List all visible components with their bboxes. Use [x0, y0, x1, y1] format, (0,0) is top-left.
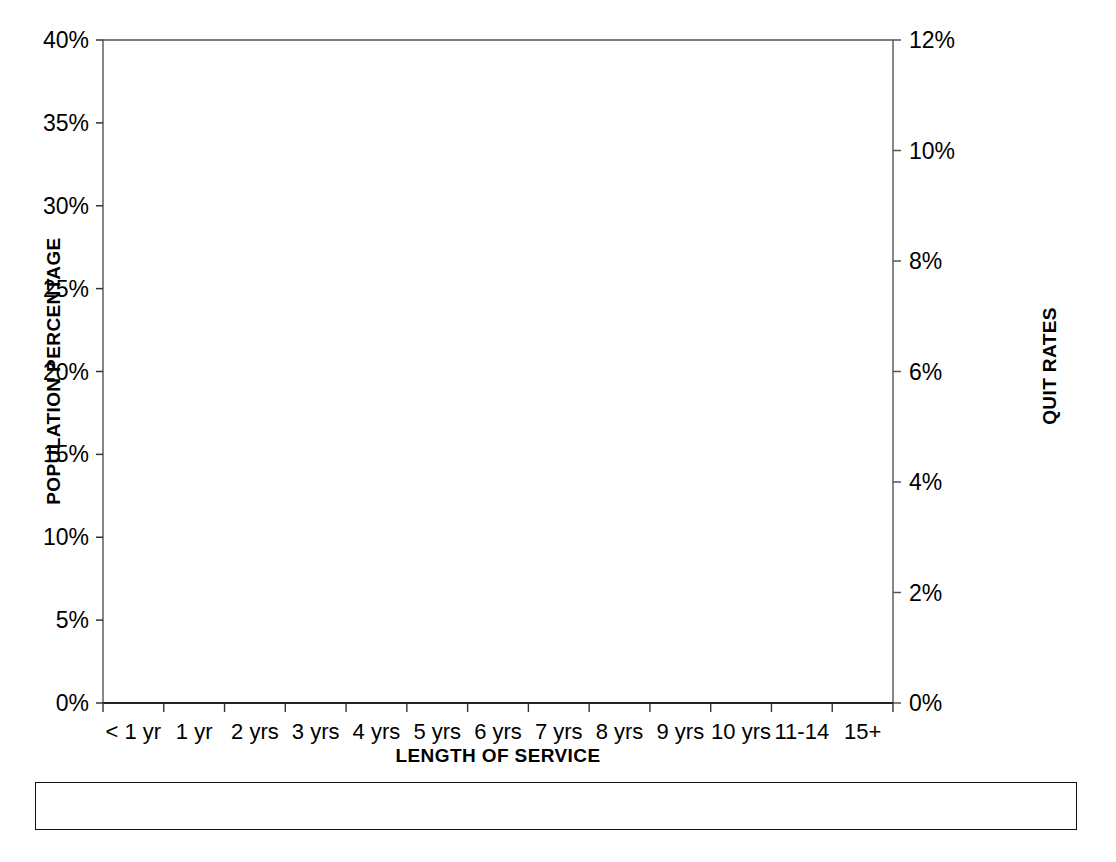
x-axis-tick-label: 11-14	[775, 719, 830, 744]
x-axis-tick-label: 4 yrs	[353, 719, 401, 744]
x-axis-tick-label: 15+	[844, 719, 881, 744]
chart-figure: 0%5%10%15%20%25%30%35%40%0%2%4%6%8%10%12…	[0, 0, 1116, 862]
x-axis-tick-label: 8 yrs	[596, 719, 644, 744]
y-axis-tick-label: 40%	[43, 27, 89, 53]
y2-axis-title: QUIT RATES	[1039, 256, 1061, 476]
y2-axis-tick-label: 6%	[909, 359, 942, 385]
x-axis-tick-label: 3 yrs	[292, 719, 340, 744]
plot-frame	[103, 40, 893, 703]
y-axis-tick-label: 5%	[56, 607, 89, 633]
x-axis-tick-label: 9 yrs	[656, 719, 704, 744]
y2-axis-tick-label: 8%	[909, 248, 942, 274]
x-axis-tick-label: 10 yrs	[711, 719, 771, 744]
y-axis-tick-label: 10%	[43, 524, 89, 550]
x-axis-tick-label: < 1 yr	[106, 719, 162, 744]
x-axis-tick-label: 6 yrs	[474, 719, 522, 744]
chart-legend	[35, 782, 1077, 830]
y-axis-tick-label: 30%	[43, 193, 89, 219]
y-axis-tick-label: 0%	[56, 690, 89, 716]
x-axis-tick-label: 2 yrs	[231, 719, 279, 744]
x-axis-tick-label: 5 yrs	[413, 719, 461, 744]
x-axis-tick-label: 7 yrs	[535, 719, 583, 744]
x-axis-title: LENGTH OF SERVICE	[103, 745, 893, 767]
y2-axis-tick-label: 4%	[909, 469, 942, 495]
y-axis-tick-label: 35%	[43, 110, 89, 136]
x-axis-tick-label: 1 yr	[176, 719, 213, 744]
y2-axis-tick-label: 2%	[909, 580, 942, 606]
y2-axis-tick-label: 10%	[909, 138, 955, 164]
y2-axis-tick-label: 12%	[909, 27, 955, 53]
y2-axis-tick-label: 0%	[909, 690, 942, 716]
chart-plot-area: 0%5%10%15%20%25%30%35%40%0%2%4%6%8%10%12…	[0, 0, 1116, 780]
y-axis-title: POPULATION PERCENTAGE	[43, 221, 65, 521]
